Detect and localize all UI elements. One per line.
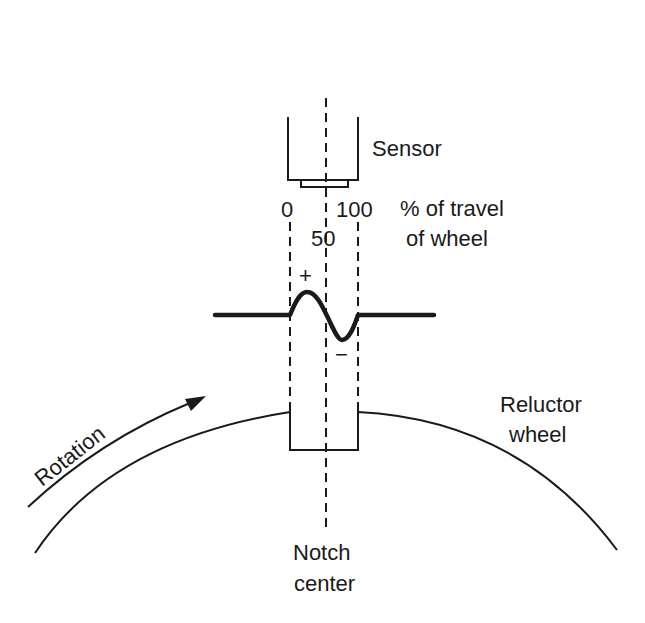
reluctor-label-line1: Reluctor — [500, 392, 582, 417]
travel-label-line2: of wheel — [406, 226, 488, 251]
tick-0-label: 0 — [281, 197, 293, 222]
travel-label-line1: % of travel — [400, 196, 504, 221]
arrowhead-icon — [185, 396, 206, 411]
reluctor-label-line2: wheel — [508, 422, 566, 447]
notch-center-label-line1: Notch — [293, 540, 350, 565]
notch-center-label-line2: center — [294, 571, 355, 596]
negative-peak-label: − — [335, 342, 348, 367]
tick-100-label: 100 — [336, 197, 373, 222]
tick-50-label: 50 — [311, 226, 335, 251]
rotation-label: Rotation — [30, 421, 110, 491]
sensor-label: Sensor — [372, 136, 442, 161]
sensor-waveform — [215, 292, 434, 340]
sensor — [288, 117, 358, 187]
positive-peak-label: + — [299, 263, 312, 288]
reluctor-sensor-diagram: Sensor 0 100 50 % of travel of wheel + −… — [0, 0, 645, 623]
